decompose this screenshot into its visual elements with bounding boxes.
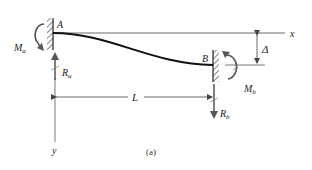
- moment-a-label: Ma: [13, 42, 26, 55]
- y-axis: y: [51, 78, 57, 156]
- span-label: L: [131, 91, 138, 103]
- displacement-dimension: Δ: [257, 35, 268, 63]
- fixed-support-b: B: [202, 50, 219, 82]
- deflected-beam: [53, 33, 213, 65]
- x-axis-label: x: [289, 28, 295, 39]
- y-axis-label: y: [51, 145, 57, 156]
- reaction-b-label: Rb: [219, 108, 230, 121]
- fixed-beam-diagram: x y A B Δ Ma Ra Mb: [0, 0, 312, 170]
- reaction-a: Ra: [51, 52, 72, 80]
- support-b-label: B: [202, 53, 208, 64]
- displacement-label: Δ: [261, 43, 268, 55]
- reaction-b: Rb: [210, 84, 230, 121]
- support-a-label: A: [56, 19, 64, 30]
- figure-caption: (a): [146, 147, 156, 157]
- reaction-a-label: Ra: [61, 67, 72, 80]
- moment-b-label: Mb: [243, 83, 256, 96]
- span-dimension: L: [56, 91, 212, 103]
- moment-a: Ma: [13, 24, 44, 55]
- moment-b: Mb: [222, 51, 256, 96]
